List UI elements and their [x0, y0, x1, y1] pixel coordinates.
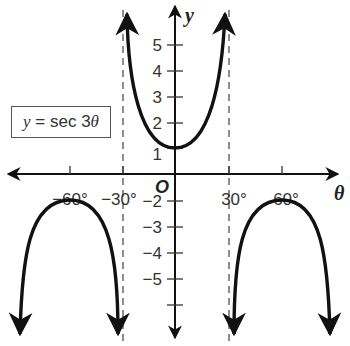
y-tick-label: 4 [153, 62, 162, 81]
y-tick-label: 2 [153, 114, 162, 133]
y-tick-label: −3 [143, 218, 162, 237]
secant-graph: 5 4 3 2 1 −2 −3 −4 −5 −60° −30° 30° 60° … [0, 0, 350, 346]
y-tick-label: −5 [143, 270, 162, 289]
origin-label: O [155, 177, 169, 197]
legend-var: y [23, 112, 31, 132]
legend-eq: = sec 3 [31, 112, 91, 132]
y-axis-label: y [183, 4, 194, 27]
y-tick-label: 5 [153, 36, 162, 55]
y-tick-label: −4 [143, 244, 162, 263]
y-tick-label: 1 [153, 145, 162, 164]
function-label-box: y = sec 3 θ [11, 106, 111, 138]
y-tick-label: 3 [153, 88, 162, 107]
curve-left-branch [20, 200, 118, 334]
x-tick-label: 30° [221, 190, 247, 209]
curve-right-branch [234, 200, 330, 334]
legend-arg: θ [91, 112, 99, 132]
x-axis-label: θ [334, 182, 345, 204]
x-tick-label: −30° [101, 190, 137, 209]
